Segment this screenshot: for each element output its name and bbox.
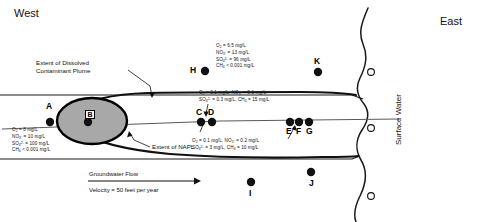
- chem-ch4-row: CH4 < 0.001 mg/L: [12, 147, 50, 154]
- chem-o2-value: = 0.1 mg/L,: [205, 90, 232, 95]
- point-label-J: J: [309, 179, 314, 188]
- point-marker-D[interactable]: [208, 118, 216, 126]
- chem-so4-row: SO42- = 96 mg/L: [216, 57, 254, 64]
- point-label-C: C: [196, 108, 202, 117]
- chem-ch4-value: < 0.001 mg/L: [225, 63, 255, 68]
- surface-water-label: Surface Water: [395, 94, 403, 145]
- chemistry-block-plume-lower: O2 = 0.1 mg/L, NO3- = 0.2 mg/L SO42- = 3…: [192, 138, 259, 152]
- surface-water-point-markers: [368, 69, 375, 200]
- upper-boundary-path: [0, 95, 363, 99]
- chem-o2-value: = 0.1 mg/L,: [198, 138, 225, 143]
- chem-ch4-value: < 0.001 mg/L: [21, 147, 51, 152]
- point-label-G: G: [306, 127, 313, 136]
- diagram-vector-layer: [0, 0, 488, 222]
- chem-line-2: SO42- = 0.3 mg/L, CH4 = 15 mg/L: [199, 97, 270, 104]
- chem-so4-row: SO42- = 100 mg/L: [12, 141, 50, 148]
- chem-line-1: O2 = 0.1 mg/L, NO3- = 0.1 mg/L: [199, 90, 270, 97]
- napl-callout-label: Extent of NAPL: [152, 144, 194, 150]
- sw-point-marker-1[interactable]: [368, 69, 375, 76]
- point-marker-J[interactable]: [307, 168, 315, 176]
- chem-o2-value: = 6.5 mg/L: [222, 43, 246, 48]
- point-marker-H[interactable]: [201, 67, 209, 75]
- napl-zone-label: B: [85, 110, 95, 119]
- plume-callout-line2: Contaminant Plume: [36, 67, 90, 75]
- chem-so4-value: = 96 mg/L: [228, 57, 251, 62]
- chemistry-block-background-h: O2 = 6.5 mg/L NO3- = 13 mg/L SO42- = 96 …: [216, 43, 254, 70]
- chemistry-block-plume-upper: O2 = 0.1 mg/L, NO3- = 0.1 mg/L SO42- = 0…: [199, 90, 270, 104]
- point-label-I: I: [249, 189, 251, 198]
- point-label-K: K: [314, 57, 320, 66]
- chemistry-block-upgradient-a: O2 = 8 mg/L NO3- = 10 mg/L SO42- = 100 m…: [12, 127, 50, 154]
- plume-callout: Extent of Dissolved Contaminant Plume: [36, 59, 90, 76]
- point-marker-F[interactable]: [295, 118, 303, 126]
- chem-line-1: O2 = 0.1 mg/L, NO3- = 0.2 mg/L: [192, 138, 259, 145]
- chem-so4-symbol: SO: [12, 141, 19, 146]
- point-label-A: A: [46, 102, 52, 111]
- point-marker-G[interactable]: [305, 118, 313, 126]
- chem-so4-symbol: SO: [192, 145, 199, 150]
- chem-no3-value: = 0.2 mg/L: [235, 138, 259, 143]
- compass-label-east: East: [440, 16, 462, 27]
- chem-o2-row: O2 = 6.5 mg/L: [216, 43, 254, 50]
- chem-no3-symbol: NO: [232, 90, 239, 95]
- napl-callout-leader: [130, 133, 150, 147]
- chem-so4-value: = 3 mg/L,: [204, 145, 227, 150]
- chem-no3-row: NO3- = 10 mg/L: [12, 134, 50, 141]
- flow-arrow-head: [194, 178, 201, 185]
- chem-no3-row: NO3- = 13 mg/L: [216, 50, 254, 57]
- chem-no3-value: = 13 mg/L: [226, 50, 249, 55]
- flow-title: Groundwater Flow: [89, 171, 138, 177]
- chem-o2-row: O2 = 8 mg/L: [12, 127, 50, 134]
- chem-so4-value: = 0.3 mg/L,: [211, 97, 238, 102]
- chem-ch4-value: = 10 mg/L: [236, 145, 259, 150]
- chem-ch4-symbol: CH: [216, 63, 223, 68]
- chem-o2-value: = 8 mg/L: [18, 127, 38, 132]
- point-marker-I[interactable]: [247, 178, 255, 186]
- chem-ch4-row: CH4 < 0.001 mg/L: [216, 63, 254, 70]
- chem-ch4-symbol: CH: [227, 145, 234, 150]
- napl-zone-label-box: B: [85, 104, 95, 120]
- point-label-H: H: [190, 66, 196, 75]
- point-marker-C[interactable]: [197, 118, 205, 126]
- diagram-canvas: West East Surface Water Extent of Dissol…: [0, 0, 488, 222]
- chem-so4-symbol: SO: [199, 97, 206, 102]
- chem-ch4-symbol: CH: [238, 97, 245, 102]
- chem-no3-symbol: NO: [225, 138, 232, 143]
- point-label-E: E: [286, 127, 292, 136]
- sw-point-marker-2[interactable]: [368, 125, 375, 132]
- chem-so4-value: = 100 mg/L: [24, 141, 50, 146]
- plume-callout-line1: Extent of Dissolved: [36, 59, 90, 67]
- chem-so4-symbol: SO: [216, 57, 223, 62]
- chem-no3-value: = 10 mg/L: [22, 134, 45, 139]
- chem-ch4-symbol: CH: [12, 147, 19, 152]
- chem-ch4-value: = 15 mg/L: [247, 97, 270, 102]
- flow-velocity: Velocity = 50 feet per year: [89, 187, 159, 193]
- point-marker-E[interactable]: [286, 118, 294, 126]
- sw-point-marker-3[interactable]: [368, 193, 375, 200]
- compass-label-west: West: [14, 8, 39, 19]
- chem-line-2: SO42- = 3 mg/L, CH4 = 10 mg/L: [192, 145, 259, 152]
- point-label-F: F: [296, 127, 301, 136]
- point-label-D: D: [208, 108, 214, 117]
- chem-no3-value: = 0.1 mg/L: [242, 90, 266, 95]
- shoreline-path: [355, 8, 368, 222]
- point-marker-A[interactable]: [46, 118, 54, 126]
- point-marker-K[interactable]: [314, 68, 322, 76]
